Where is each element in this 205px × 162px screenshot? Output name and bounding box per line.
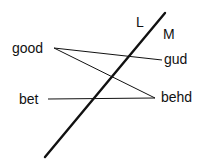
label-bet: bet [19,91,39,107]
diagram-canvas: L M good gud bet behd [0,0,205,162]
connector-bet-behd [48,98,155,99]
boundary-line-lm [45,13,165,157]
label-gud: gud [164,51,187,67]
connector-good-gud [54,48,162,60]
label-m: M [163,26,175,42]
label-l: L [136,14,144,30]
connector-good-behd [54,48,155,98]
label-good: good [12,40,43,56]
diagram: L M good gud bet behd [0,0,205,162]
label-behd: behd [161,89,192,105]
